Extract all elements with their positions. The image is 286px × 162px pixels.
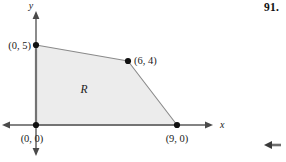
figure-container: y x (0, 5) (6, 4) (0, 0) (9, 0) R 91. — [0, 0, 286, 162]
label-point-0-5: (0, 5) — [8, 40, 31, 52]
region-r-diagram: y x (0, 5) (6, 4) (0, 0) (9, 0) R — [0, 0, 286, 162]
y-axis-label: y — [28, 0, 34, 11]
x-axis-left-arrow-icon — [2, 122, 10, 129]
vertex-dot-0-5 — [33, 42, 39, 48]
margin-left-arrow-icon — [264, 141, 281, 149]
vertex-dot-6-4 — [125, 58, 131, 64]
label-point-0-0: (0, 0) — [21, 133, 44, 145]
label-point-6-4: (6, 4) — [134, 55, 157, 67]
x-axis-label: x — [219, 119, 225, 130]
vertex-dot-9-0 — [174, 122, 180, 128]
label-point-9-0: (9, 0) — [166, 133, 189, 145]
region-label-r: R — [79, 83, 87, 95]
exercise-number: 91. — [264, 1, 279, 13]
x-axis-right-arrow-icon — [205, 122, 213, 129]
y-axis-down-arrow-icon — [33, 148, 40, 156]
y-axis-up-arrow-icon — [33, 11, 40, 19]
vertex-dot-origin — [33, 122, 39, 128]
